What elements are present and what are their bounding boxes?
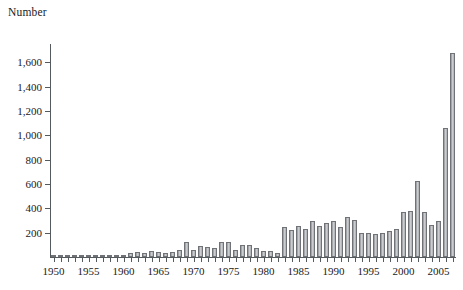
y-axis-tick-label: 1,000 — [17, 130, 42, 141]
x-axis-tick — [446, 258, 447, 262]
x-axis-tick — [313, 258, 314, 262]
x-axis-tick — [383, 258, 384, 262]
x-axis-tick — [425, 258, 426, 262]
bar — [156, 252, 161, 257]
x-axis-tick — [397, 258, 398, 262]
bar — [191, 250, 196, 257]
bar — [79, 255, 84, 257]
x-axis-tick — [362, 258, 363, 262]
x-axis-tick — [152, 258, 153, 262]
x-axis-tick — [320, 258, 321, 262]
x-axis-tick-label: 2005 — [428, 265, 450, 277]
bar — [128, 253, 133, 257]
x-axis-tick — [299, 258, 300, 262]
bar — [226, 242, 231, 257]
y-axis-tick-label: 800 — [26, 154, 43, 165]
x-axis-tick — [103, 258, 104, 262]
x-axis-tick — [145, 258, 146, 262]
bar — [317, 226, 322, 257]
bar — [282, 227, 287, 257]
bar — [429, 225, 434, 257]
bar — [254, 248, 259, 257]
x-axis-tick — [292, 258, 293, 262]
bar — [93, 255, 98, 257]
bar — [198, 246, 203, 257]
x-axis-tick — [82, 258, 83, 262]
x-axis-tick — [355, 258, 356, 262]
bar — [366, 233, 371, 257]
x-axis-tick-label: 1950 — [43, 265, 65, 277]
x-axis-tick-label: 1990 — [323, 265, 345, 277]
x-axis-tick — [89, 258, 90, 262]
bar — [163, 253, 168, 257]
x-axis-tick — [390, 258, 391, 262]
bar — [289, 230, 294, 258]
x-axis-tick — [243, 258, 244, 262]
x-axis-tick — [75, 258, 76, 262]
bar — [184, 242, 189, 257]
x-axis-tick — [306, 258, 307, 262]
y-axis-tick-label: 1,400 — [17, 81, 42, 92]
x-axis-tick — [61, 258, 62, 262]
bar — [352, 220, 357, 257]
bar — [177, 250, 182, 257]
x-axis-tick — [138, 258, 139, 262]
bar — [261, 251, 266, 257]
bar — [359, 233, 364, 257]
y-axis-tick-label: 600 — [26, 179, 43, 190]
x-axis-tick — [187, 258, 188, 262]
x-axis-tick — [124, 258, 125, 262]
bar — [394, 229, 399, 257]
x-axis-tick — [159, 258, 160, 262]
bar — [338, 227, 343, 257]
bar — [107, 255, 112, 257]
x-axis-tick — [180, 258, 181, 262]
x-axis-tick — [117, 258, 118, 262]
x-axis-tick-label: 1955 — [78, 265, 100, 277]
bar — [310, 221, 315, 258]
x-axis-tick — [236, 258, 237, 262]
bar — [240, 245, 245, 257]
bar — [247, 245, 252, 257]
x-axis-tick — [439, 258, 440, 262]
x-axis-tick — [250, 258, 251, 262]
bar — [142, 253, 147, 257]
y-axis-tick-label: 1,600 — [17, 57, 42, 68]
bar — [205, 247, 210, 257]
x-axis-tick — [229, 258, 230, 262]
y-axis-tick-label: 1,200 — [17, 105, 42, 116]
y-axis-tick-label: 200 — [26, 227, 43, 238]
x-axis-tick — [264, 258, 265, 262]
bar — [219, 242, 224, 257]
x-axis-tick — [215, 258, 216, 262]
x-axis-tick — [208, 258, 209, 262]
x-axis-tick — [278, 258, 279, 262]
x-axis-tick — [110, 258, 111, 262]
bar — [149, 251, 154, 257]
y-axis-tick-label: 400 — [26, 203, 43, 214]
bar — [58, 255, 63, 257]
x-axis-tick-label: 1980 — [253, 265, 275, 277]
x-axis-tick-label: 1970 — [183, 265, 205, 277]
x-axis-tick — [327, 258, 328, 262]
x-axis-tick — [369, 258, 370, 262]
bar — [331, 221, 336, 258]
x-axis-tick — [257, 258, 258, 262]
x-axis-tick — [453, 258, 454, 262]
x-axis-tick — [376, 258, 377, 262]
bar — [212, 248, 217, 257]
x-axis-tick — [68, 258, 69, 262]
bar — [135, 252, 140, 257]
x-axis-tick — [194, 258, 195, 262]
x-axis-tick — [418, 258, 419, 262]
x-axis-tick — [222, 258, 223, 262]
x-axis-tick-label: 1960 — [113, 265, 135, 277]
bar — [380, 233, 385, 257]
x-axis-tick-label: 1965 — [148, 265, 170, 277]
x-axis-tick-label: 2000 — [393, 265, 415, 277]
bar — [51, 255, 56, 257]
x-axis-tick — [348, 258, 349, 262]
y-axis-title: Number — [8, 6, 47, 18]
x-axis-tick — [432, 258, 433, 262]
x-axis-tick — [341, 258, 342, 262]
